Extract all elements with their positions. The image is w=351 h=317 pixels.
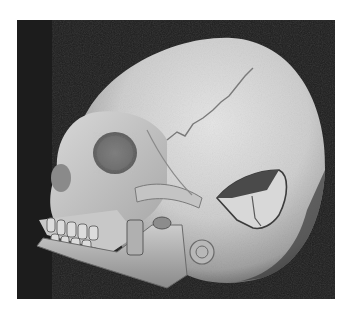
skull-render [17, 20, 335, 299]
nasal-cavity [51, 164, 71, 192]
ct-render-frame [17, 20, 335, 299]
mandible-ramus [127, 220, 143, 255]
mastoid [190, 240, 214, 264]
orbit-texture [97, 136, 133, 170]
ear-canal [153, 217, 171, 229]
